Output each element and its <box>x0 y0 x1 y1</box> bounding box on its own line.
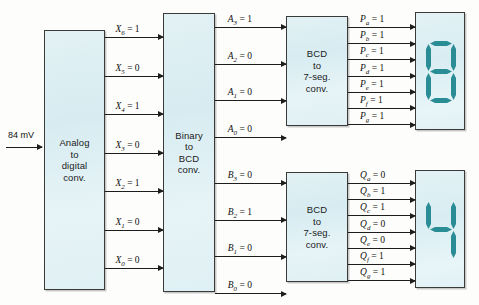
bus-b-arrow <box>215 293 286 294</box>
segment-f <box>426 44 431 71</box>
block-label-line: conv. <box>178 164 201 176</box>
bus-x-label: X6 = 1 <box>115 24 139 37</box>
bus-q-arrow <box>348 215 415 216</box>
block-label-line: to <box>313 60 321 72</box>
block-label-line: Analog <box>59 137 89 149</box>
bus-a-label: A2 = 0 <box>228 51 252 64</box>
bus-p-label: Pd = 1 <box>360 63 384 76</box>
bus-a-arrow <box>215 100 286 101</box>
block-bcd-to-7seg-converter-lower: BCD to 7-seg. conv. <box>286 172 348 282</box>
bus-b-label: B3 = 0 <box>228 170 252 183</box>
bus-x-label: X3 = 0 <box>115 140 139 153</box>
block-diagram: 84 mV Analog to digital conv. Binary to … <box>0 0 479 305</box>
bus-p-label: Pf = 1 <box>360 95 383 108</box>
bus-p-label: Pc = 1 <box>360 46 384 59</box>
input-voltage-label: 84 mV <box>8 130 34 140</box>
seven-segment-digit-8 <box>426 41 456 103</box>
block-label-line: to <box>70 149 78 161</box>
segment-g <box>430 69 452 74</box>
bus-b-arrow <box>215 256 286 257</box>
bus-q-label: Qe = 0 <box>360 235 385 248</box>
block-label-line: to <box>313 216 321 228</box>
block-label-line: conv. <box>306 239 329 251</box>
segment-d <box>430 256 452 261</box>
bus-p-label: Pe = 1 <box>360 79 384 92</box>
block-label-line: Binary <box>175 130 203 142</box>
seven-segment-display-lower <box>415 170 465 288</box>
bus-a-arrow <box>215 137 286 138</box>
bus-b-label: B1 = 0 <box>228 243 252 256</box>
block-label-line: BCD <box>179 153 199 165</box>
bus-x-arrow <box>105 268 163 269</box>
segment-e <box>426 231 431 258</box>
seven-segment-digit-4 <box>426 199 456 261</box>
block-binary-to-bcd-converter: Binary to BCD conv. <box>163 13 215 292</box>
segment-a <box>430 41 452 46</box>
segment-f <box>426 202 431 229</box>
bus-a-label: A0 = 0 <box>228 124 252 137</box>
block-label-line: conv. <box>306 83 329 95</box>
input-arrow <box>6 147 42 148</box>
block-bcd-to-7seg-converter-upper: BCD to 7-seg. conv. <box>286 16 348 126</box>
bus-q-label: Qd = 0 <box>360 219 385 232</box>
bus-a-arrow <box>215 64 286 65</box>
block-label-line: 7-seg. <box>303 71 330 83</box>
bus-p-arrow <box>348 76 415 77</box>
block-label-line: 7-seg. <box>303 227 330 239</box>
bus-q-arrow <box>348 199 415 200</box>
bus-q-label: Qa = 0 <box>360 170 385 183</box>
bus-x-arrow <box>105 76 163 77</box>
block-label-line: to <box>185 141 193 153</box>
bus-q-label: Qg = 1 <box>360 267 385 280</box>
segment-c <box>451 73 456 100</box>
segment-d <box>430 98 452 103</box>
bus-p-label: Pb = 1 <box>360 30 384 43</box>
bus-q-arrow <box>348 248 415 249</box>
segment-b <box>451 44 456 71</box>
bus-q-label: Qf = 1 <box>360 251 384 264</box>
bus-p-arrow <box>348 27 415 28</box>
bus-b-arrow <box>215 183 286 184</box>
bus-a-label: A1 = 0 <box>228 87 252 100</box>
bus-p-arrow <box>348 43 415 44</box>
bus-q-arrow <box>348 232 415 233</box>
segment-g <box>430 227 452 232</box>
bus-b-arrow <box>215 220 286 221</box>
bus-p-label: Pg = 1 <box>360 111 384 124</box>
segment-e <box>426 73 431 100</box>
bus-x-arrow <box>105 114 163 115</box>
bus-p-arrow <box>348 108 415 109</box>
block-label-line: BCD <box>307 48 327 60</box>
bus-b-label: B2 = 1 <box>228 207 252 220</box>
bus-p-arrow <box>348 124 415 125</box>
bus-x-label: X0 = 0 <box>115 255 139 268</box>
block-label-line: conv. <box>63 172 86 184</box>
bus-q-label: Qb = 1 <box>360 186 385 199</box>
bus-a-label: A3 = 1 <box>228 14 252 27</box>
bus-b-label: B0 = 0 <box>228 280 252 293</box>
bus-p-label: Pa = 1 <box>360 14 384 27</box>
bus-a-arrow <box>215 27 286 28</box>
bus-x-label: X2 = 1 <box>115 178 139 191</box>
block-label-line: digital <box>62 160 88 172</box>
segment-c <box>451 231 456 258</box>
bus-q-arrow <box>348 280 415 281</box>
bus-x-arrow <box>105 37 163 38</box>
segment-b <box>451 202 456 229</box>
seven-segment-display-upper <box>415 12 465 130</box>
bus-x-arrow <box>105 191 163 192</box>
bus-x-arrow <box>105 153 163 154</box>
bus-q-label: Qc = 1 <box>360 202 385 215</box>
bus-x-label: X5 = 0 <box>115 63 139 76</box>
bus-p-arrow <box>348 59 415 60</box>
bus-q-arrow <box>348 264 415 265</box>
bus-q-arrow <box>348 183 415 184</box>
bus-p-arrow <box>348 92 415 93</box>
bus-x-arrow <box>105 230 163 231</box>
segment-a <box>430 199 452 204</box>
bus-x-label: X1 = 0 <box>115 217 139 230</box>
bus-x-label: X4 = 1 <box>115 101 139 114</box>
block-label-line: BCD <box>307 204 327 216</box>
block-analog-to-digital-converter: Analog to digital conv. <box>44 30 105 290</box>
